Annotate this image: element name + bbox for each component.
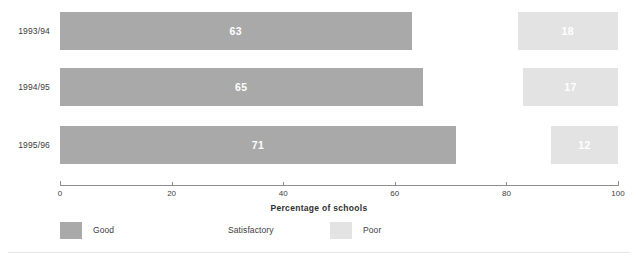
x-axis-tick: [172, 182, 173, 186]
bar-segment-satisfactory: [456, 126, 551, 164]
x-axis-tick-label: 100: [611, 189, 624, 198]
legend-item-good[interactable]: Good: [60, 219, 114, 241]
legend-swatch-icon: [195, 222, 217, 239]
x-axis-tick: [60, 181, 61, 186]
x-axis-line: [60, 185, 618, 186]
bar-segment-good: 71: [60, 126, 456, 164]
x-axis-tick-label: 80: [502, 189, 511, 198]
x-axis-tick: [618, 181, 619, 186]
x-axis-tick-label: 20: [167, 189, 176, 198]
bar-value-label: 12: [578, 140, 590, 151]
bar-value-label: 63: [230, 26, 242, 37]
legend-item-satisfactory[interactable]: Satisfactory: [195, 219, 274, 241]
x-axis-tick-label: 60: [390, 189, 399, 198]
bar-track: 6318: [60, 12, 618, 50]
x-axis-tick: [283, 182, 284, 186]
bar-segment-poor: 18: [518, 12, 618, 50]
legend-label: Satisfactory: [228, 225, 274, 235]
stacked-bar-chart: 1993/9463181994/9565171995/967112 020406…: [0, 0, 638, 259]
x-axis-tick: [506, 182, 507, 186]
legend-label: Good: [93, 225, 114, 235]
bar-segment-poor: 17: [523, 68, 618, 106]
bar-segment-good: 63: [60, 12, 412, 50]
legend-label: Poor: [363, 225, 381, 235]
bar-value-label: 65: [235, 82, 247, 93]
bar-segment-good: 65: [60, 68, 423, 106]
row-category-label: 1995/96: [0, 126, 50, 164]
row-category-label: 1994/95: [0, 68, 50, 106]
x-axis-tick-label: 40: [279, 189, 288, 198]
legend-swatch-icon: [330, 222, 352, 239]
bottom-divider: [8, 252, 630, 253]
legend-swatch-icon: [60, 222, 82, 239]
chart-row: 1995/967112: [0, 126, 638, 164]
bar-value-label: 18: [562, 26, 574, 37]
bar-track: 7112: [60, 126, 618, 164]
bar-segment-poor: 12: [551, 126, 618, 164]
chart-row: 1994/956517: [0, 68, 638, 106]
legend-item-poor[interactable]: Poor: [330, 219, 381, 241]
bar-segment-satisfactory: [423, 68, 523, 106]
row-category-label: 1993/94: [0, 12, 50, 50]
bar-value-label: 17: [564, 82, 576, 93]
bar-track: 6517: [60, 68, 618, 106]
x-axis-tick: [395, 182, 396, 186]
x-axis-tick-label: 0: [58, 189, 62, 198]
chart-legend: GoodSatisfactoryPoor: [60, 219, 620, 241]
x-axis-title: Percentage of schools: [0, 203, 638, 213]
bar-value-label: 71: [252, 140, 264, 151]
chart-row: 1993/946318: [0, 12, 638, 50]
bar-segment-satisfactory: [412, 12, 518, 50]
